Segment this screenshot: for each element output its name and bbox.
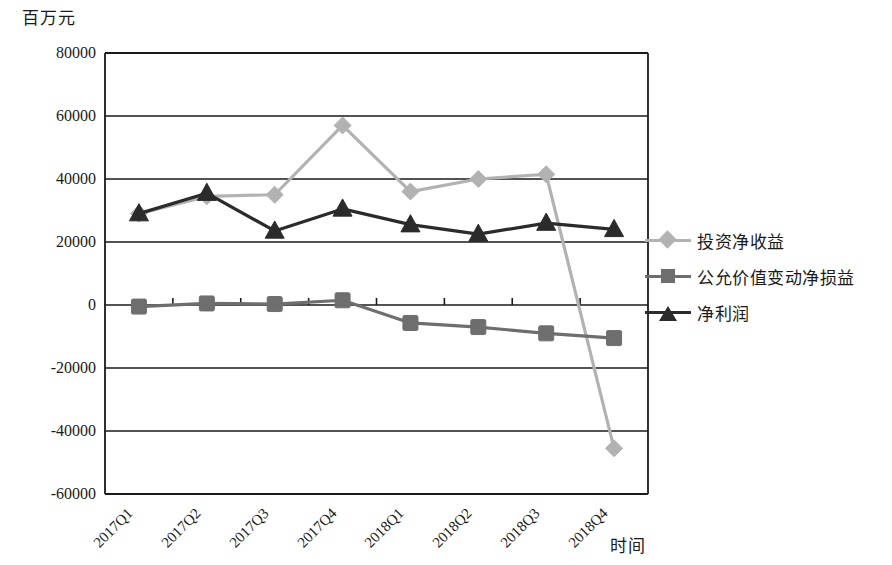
legend-swatch-triangle	[645, 303, 691, 321]
legend-item[interactable]: 净利润	[645, 294, 890, 330]
x-axis-tick-label: 2018Q1	[362, 506, 407, 551]
x-axis-title: 时间	[610, 532, 646, 557]
legend-label: 投资净收益	[697, 228, 785, 253]
x-axis-tick-label: 2018Q2	[430, 506, 475, 551]
legend-swatch-square	[645, 267, 691, 285]
x-axis-tick-label: 2018Q4	[566, 506, 611, 551]
legend-label: 净利润	[697, 300, 750, 325]
legend-label: 公允价值变动净损益	[697, 264, 855, 289]
x-axis-tick-label: 2017Q1	[91, 506, 136, 551]
x-axis-tick-label: 2017Q4	[295, 506, 340, 551]
x-axis-tick-label: 2017Q3	[227, 506, 272, 551]
chart-legend: 投资净收益公允价值变动净损益净利润	[645, 222, 890, 330]
x-axis-tick-label: 2018Q3	[498, 506, 543, 551]
legend-item[interactable]: 投资净收益	[645, 222, 890, 258]
legend-item[interactable]: 公允价值变动净损益	[645, 258, 890, 294]
x-axis-tick-label: 2017Q2	[159, 506, 204, 551]
legend-marker-diamond-icon	[658, 230, 676, 248]
legend-marker-square-icon	[661, 269, 675, 283]
legend-marker-triangle-icon	[659, 306, 677, 321]
chart-figure: 百万元 800006000040000200000-20000-40000-60…	[0, 0, 892, 565]
legend-swatch-diamond	[645, 231, 691, 249]
